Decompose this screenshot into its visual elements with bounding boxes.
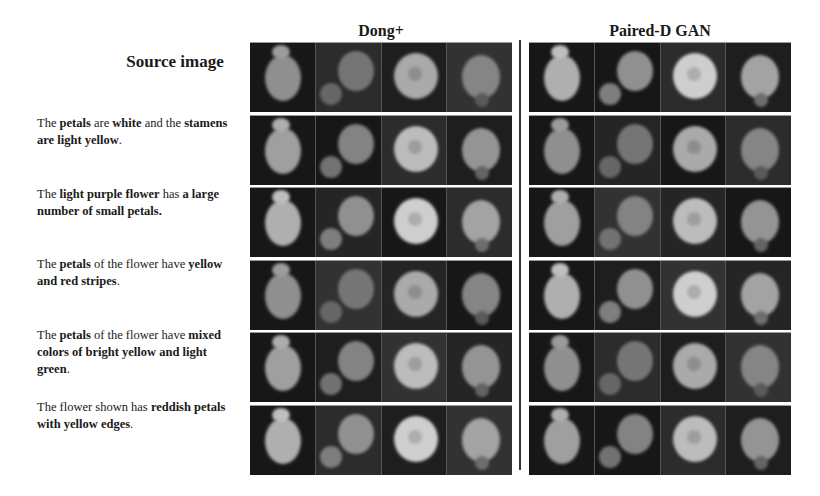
caption-text: and the [142, 116, 185, 130]
caption-text: . [130, 417, 133, 431]
flower-thumbnail [529, 261, 595, 330]
flower-thumbnail [382, 43, 448, 112]
flower-thumbnail [382, 406, 448, 475]
flower-thumbnail [661, 43, 727, 112]
flower-thumbnail [529, 188, 595, 257]
caption-text: The [37, 257, 60, 271]
image-row [250, 332, 512, 402]
flower-thumbnail [316, 43, 382, 112]
flower-thumbnail [595, 188, 661, 257]
flower-thumbnail [447, 333, 512, 402]
caption-text: The [37, 116, 60, 130]
image-row [529, 405, 791, 475]
dong-plus-title: Dong+ [250, 22, 512, 40]
flower-thumbnail [382, 333, 448, 402]
flower-thumbnail [661, 188, 727, 257]
flower-thumbnail [447, 43, 512, 112]
flower-thumbnail [316, 406, 382, 475]
caption-text: . [117, 274, 120, 288]
caption-emphasis: petals [60, 328, 91, 342]
caption-text: . [67, 362, 70, 376]
flower-thumbnail [726, 406, 791, 475]
flower-thumbnail [250, 261, 316, 330]
flower-thumbnail [661, 333, 727, 402]
flower-thumbnail [250, 188, 316, 257]
caption-emphasis: light purple flower [60, 187, 160, 201]
flower-thumbnail [316, 261, 382, 330]
dong-plus-image-grid [250, 42, 512, 478]
flower-thumbnail [595, 261, 661, 330]
flower-thumbnail [726, 43, 791, 112]
caption-emphasis: petals [60, 116, 91, 130]
image-row [529, 260, 791, 330]
flower-thumbnail [447, 406, 512, 475]
source-image-title: Source image [100, 52, 250, 72]
row-caption: The petals of the flower have mixed colo… [37, 327, 237, 378]
flower-thumbnail [529, 116, 595, 185]
caption-text: . [119, 133, 122, 147]
flower-thumbnail [316, 116, 382, 185]
flower-thumbnail [250, 116, 316, 185]
image-row [250, 42, 512, 112]
image-row [250, 115, 512, 185]
flower-thumbnail [447, 261, 512, 330]
caption-text: The flower shown has [37, 400, 151, 414]
flower-thumbnail [382, 116, 448, 185]
flower-thumbnail [661, 406, 727, 475]
image-row [529, 187, 791, 257]
caption-text: The [37, 187, 60, 201]
image-row [529, 42, 791, 112]
caption-text: are [91, 116, 113, 130]
flower-thumbnail [726, 116, 791, 185]
flower-thumbnail [382, 188, 448, 257]
flower-thumbnail [250, 43, 316, 112]
flower-thumbnail [447, 116, 512, 185]
flower-thumbnail [595, 333, 661, 402]
flower-thumbnail [726, 261, 791, 330]
flower-thumbnail [316, 333, 382, 402]
paired-d-gan-title: Paired-D GAN [529, 22, 791, 40]
caption-text: of the flower have [91, 328, 189, 342]
flower-thumbnail [447, 188, 512, 257]
caption-emphasis: petals [60, 257, 91, 271]
flower-thumbnail [529, 406, 595, 475]
flower-thumbnail [250, 333, 316, 402]
flower-thumbnail [316, 188, 382, 257]
row-caption: The flower shown has reddish petals with… [37, 399, 237, 433]
caption-text: The [37, 328, 60, 342]
image-row [250, 405, 512, 475]
image-row [529, 115, 791, 185]
caption-text: has [160, 187, 183, 201]
flower-thumbnail [661, 116, 727, 185]
flower-thumbnail [661, 261, 727, 330]
flower-thumbnail [529, 333, 595, 402]
image-row [250, 187, 512, 257]
flower-thumbnail [250, 406, 316, 475]
caption-text: of the flower have [91, 257, 189, 271]
flower-thumbnail [726, 188, 791, 257]
flower-thumbnail [595, 43, 661, 112]
row-caption: The petals of the flower have yellow and… [37, 256, 237, 290]
image-row [250, 260, 512, 330]
image-row [529, 332, 791, 402]
flower-thumbnail [382, 261, 448, 330]
paired-d-gan-image-grid [529, 42, 791, 478]
flower-thumbnail [529, 43, 595, 112]
row-caption: The petals are white and the stamens are… [37, 115, 237, 149]
flower-thumbnail [595, 116, 661, 185]
column-divider [519, 40, 521, 470]
flower-thumbnail [726, 333, 791, 402]
row-caption: The light purple flower has a large numb… [37, 186, 237, 220]
flower-thumbnail [595, 406, 661, 475]
caption-emphasis: white [112, 116, 141, 130]
